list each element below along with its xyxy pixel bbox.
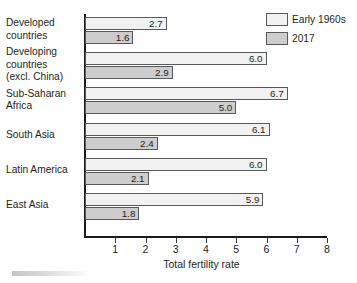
category-label-line: Latin America	[6, 164, 82, 176]
bar-value-label: 1.6	[111, 31, 133, 44]
x-tick-label-3: 3	[166, 243, 186, 255]
category-label-line: (excl. China)	[6, 71, 82, 83]
category-label-line: Africa	[6, 100, 82, 112]
bar	[85, 52, 267, 65]
bar-value-label: 6.0	[245, 52, 267, 65]
x-tick-label-4: 4	[196, 243, 216, 255]
category-label: East Asia	[6, 199, 82, 211]
legend-item-2017: 2017	[266, 32, 356, 45]
bar	[85, 193, 263, 206]
legend-swatch-2017	[266, 32, 288, 45]
legend-label-2017: 2017	[292, 33, 315, 44]
category-label-line: Developing	[6, 46, 82, 58]
bar	[85, 123, 270, 136]
bar	[85, 87, 288, 100]
x-tick-label-8: 8	[317, 243, 337, 255]
bar-value-label: 6.1	[248, 123, 270, 136]
category-label: Latin America	[6, 164, 82, 176]
x-axis-title: Total fertility rate	[0, 258, 357, 270]
x-tick-label-6: 6	[257, 243, 277, 255]
category-label: Developingcountries(excl. China)	[6, 46, 82, 83]
chart-legend: Early 1960s 2017	[266, 13, 356, 51]
bar-value-label: 2.4	[136, 137, 158, 150]
bar-value-label: 5.9	[241, 193, 263, 206]
fertility-rate-bar-chart: 12345678 DevelopedcountriesDevelopingcou…	[0, 0, 357, 283]
x-tick-label-7: 7	[287, 243, 307, 255]
scan-artifact	[12, 271, 90, 276]
bar-value-label: 5.0	[214, 101, 236, 114]
category-label-line: Sub-Saharan	[6, 88, 82, 100]
bar-value-label: 6.7	[266, 87, 288, 100]
category-label-line: South Asia	[6, 129, 82, 141]
bar-value-label: 2.7	[145, 17, 167, 30]
category-label-line: Developed	[6, 17, 82, 29]
category-label: Sub-SaharanAfrica	[6, 88, 82, 112]
bar-value-label: 1.8	[117, 207, 139, 220]
category-label-line: East Asia	[6, 199, 82, 211]
legend-item-early-1960s: Early 1960s	[266, 13, 356, 26]
bar-value-label: 6.0	[245, 158, 267, 171]
legend-label-early-1960s: Early 1960s	[292, 14, 346, 25]
bar-value-label: 2.1	[127, 172, 149, 185]
category-label: South Asia	[6, 129, 82, 141]
category-label-line: countries	[6, 30, 82, 42]
x-tick-label-2: 2	[136, 243, 156, 255]
bar-value-label: 2.9	[151, 66, 173, 79]
bar	[85, 158, 267, 171]
category-label-line: countries	[6, 59, 82, 71]
x-tick-label-1: 1	[105, 243, 125, 255]
legend-swatch-early-1960s	[266, 13, 288, 26]
x-tick-label-5: 5	[226, 243, 246, 255]
category-label: Developedcountries	[6, 17, 82, 41]
